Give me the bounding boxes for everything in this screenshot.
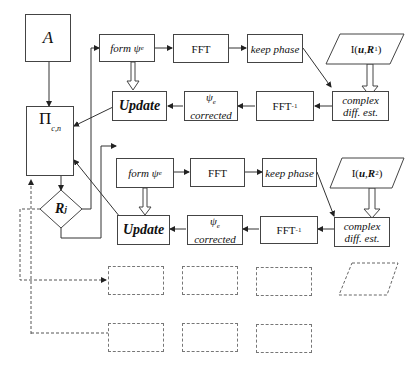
placeholder-box-r4-c2	[182, 323, 238, 352]
intensity-label-2: I(u, R2)	[336, 160, 398, 186]
intensity-label-1: I(u, R1)	[334, 36, 398, 62]
placeholder-box-r3-c1	[108, 266, 164, 295]
placeholder-box-r3-c2	[182, 266, 238, 295]
complex-diff-est-box-2: complex diff. est.	[334, 217, 390, 247]
keep-phase-box-2: keep phase	[262, 158, 317, 187]
psi-corrected-box-1: ψe corrected	[184, 91, 238, 121]
projection-symbol: Π	[39, 113, 51, 125]
psi-corrected-box-2: ψe corrected	[187, 215, 243, 245]
placeholder-box-r4-c1	[108, 323, 164, 352]
complex-diff-est-box-1: complex diff. est.	[332, 91, 389, 121]
projection-subscript: c,n	[51, 123, 61, 135]
hollow-arrow-form-update-1	[127, 62, 139, 90]
projection-node: Πc,n	[26, 106, 74, 176]
form-psi-box-2: form ψe	[116, 158, 174, 188]
update-box-2: Update	[117, 215, 170, 245]
fft-box-1: FFT	[173, 34, 229, 63]
placeholder-box-r4-c3	[256, 324, 312, 353]
ifft-box-2: FFT-1	[260, 216, 318, 244]
hollow-arrow-form-update-2	[139, 188, 151, 215]
hollow-arrow-intensity-complex-2	[364, 188, 380, 218]
fft-box-2: FFT	[190, 158, 245, 187]
ifft-box-1: FFT-1	[256, 91, 314, 121]
keep-phase-box-1: keep phase	[247, 34, 303, 63]
input-node-label: A	[43, 32, 53, 44]
update-box-1: Update	[112, 91, 167, 121]
placeholder-parallelogram	[339, 263, 398, 295]
form-psi-box-1: form ψe	[99, 34, 155, 62]
input-node-a: A	[25, 14, 71, 62]
placeholder-box-r3-c3	[256, 267, 312, 296]
decision-node-label: Rj	[40, 198, 82, 220]
